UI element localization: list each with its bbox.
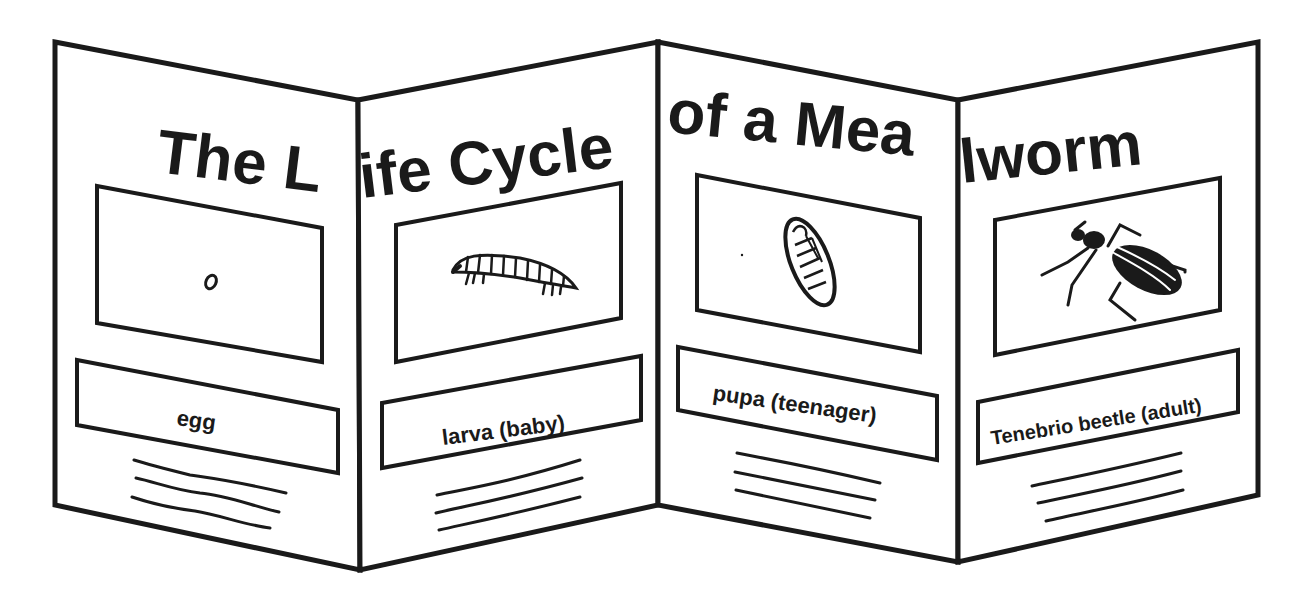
panel-2-larva	[358, 42, 658, 570]
mealworm-lifecycle-diagram: The L ife Cycle of a Mea lworm egg larva…	[0, 0, 1305, 592]
